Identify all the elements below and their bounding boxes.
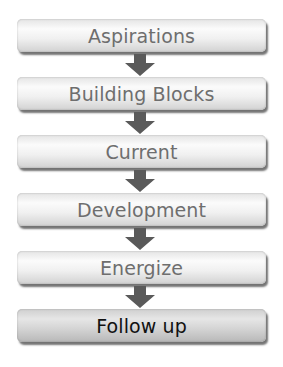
step-development: Development: [17, 193, 266, 226]
step-label: Follow up: [96, 315, 187, 337]
step-follow-up: Follow up: [17, 309, 266, 342]
step-label: Current: [105, 141, 177, 163]
down-arrow-icon: [125, 228, 155, 250]
step-energize: Energize: [17, 251, 266, 284]
step-label: Aspirations: [88, 25, 195, 47]
down-arrow-icon: [125, 286, 155, 308]
step-aspirations: Aspirations: [17, 19, 266, 52]
step-building-blocks: Building Blocks: [17, 77, 266, 110]
step-label: Building Blocks: [69, 83, 215, 105]
down-arrow-icon: [125, 54, 155, 76]
down-arrow-icon: [125, 112, 155, 134]
down-arrow-icon: [125, 170, 155, 192]
step-label: Development: [77, 199, 206, 221]
step-label: Energize: [100, 257, 183, 279]
step-current: Current: [17, 135, 266, 168]
